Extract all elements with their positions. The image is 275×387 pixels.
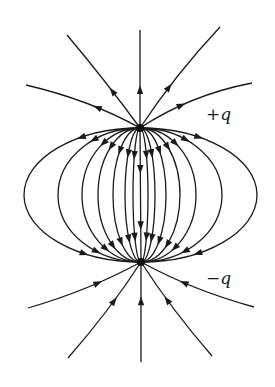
field-line-right-5: [140, 128, 166, 262]
outer-line-positive-2: [67, 35, 140, 128]
arrow-right-5-lower: [158, 236, 164, 245]
arrow-left-4-upper: [109, 141, 117, 150]
negative-charge-label: −q: [206, 268, 231, 288]
arrow-center-lower: [137, 221, 143, 230]
arrow-left-5-lower: [116, 237, 122, 246]
positive-charge-label: +q: [206, 104, 231, 124]
dipole-field-diagram: +q −q: [0, 0, 275, 387]
arrow-outer-negative-5: [180, 281, 189, 287]
arrow-right-2-lower: [181, 246, 190, 253]
arrow-left-5-upper: [118, 145, 124, 154]
arrow-left-4-lower: [108, 240, 116, 249]
arrow-outer-positive-4: [164, 84, 172, 93]
arrow-right-5-upper: [155, 145, 161, 154]
arrow-outer-negative-2: [109, 297, 117, 306]
arrow-left-1-lower: [79, 249, 88, 255]
outer-line-negative-1: [28, 262, 141, 308]
outer-line-negative-5: [141, 262, 254, 307]
arrow-left-6-upper: [126, 149, 132, 158]
field-line-center: [140, 128, 141, 262]
arrow-outer-negative-1: [93, 281, 102, 287]
outer-line-negative-4: [141, 262, 212, 356]
field-line-left-5: [113, 128, 141, 262]
outer-line-positive-5: [140, 83, 252, 128]
arrow-right-7-upper: [143, 150, 149, 159]
negative-charge: [137, 258, 145, 266]
arrow-outer-negative-3: [138, 297, 144, 306]
arrow-left-2-lower: [91, 247, 100, 254]
arrow-outer-positive-3: [137, 85, 143, 94]
arrow-outer-negative-4: [165, 296, 173, 305]
arrow-outer-positive-1: [93, 106, 102, 112]
field-lines: [24, 27, 257, 362]
outer-line-positive-1: [26, 85, 140, 128]
arrow-right-6-upper: [148, 149, 154, 158]
arrow-right-6-lower: [149, 233, 155, 242]
arrow-center-upper: [137, 165, 143, 174]
arrow-left-6-lower: [125, 234, 131, 243]
arrow-right-4-lower: [165, 239, 172, 248]
arrow-right-1-upper: [194, 133, 203, 139]
arrow-right-2-upper: [181, 135, 190, 142]
arrow-right-4-upper: [163, 141, 170, 150]
arrow-left-2-upper: [90, 135, 99, 142]
arrow-outer-positive-5: [176, 103, 185, 110]
arrow-outer-positive-2: [110, 88, 118, 97]
outer-line-negative-2: [68, 262, 141, 358]
arrow-left-1-upper: [77, 133, 86, 139]
arrow-left-7-lower: [131, 232, 137, 241]
positive-charge: [136, 124, 144, 132]
arrow-right-1-lower: [194, 249, 203, 255]
